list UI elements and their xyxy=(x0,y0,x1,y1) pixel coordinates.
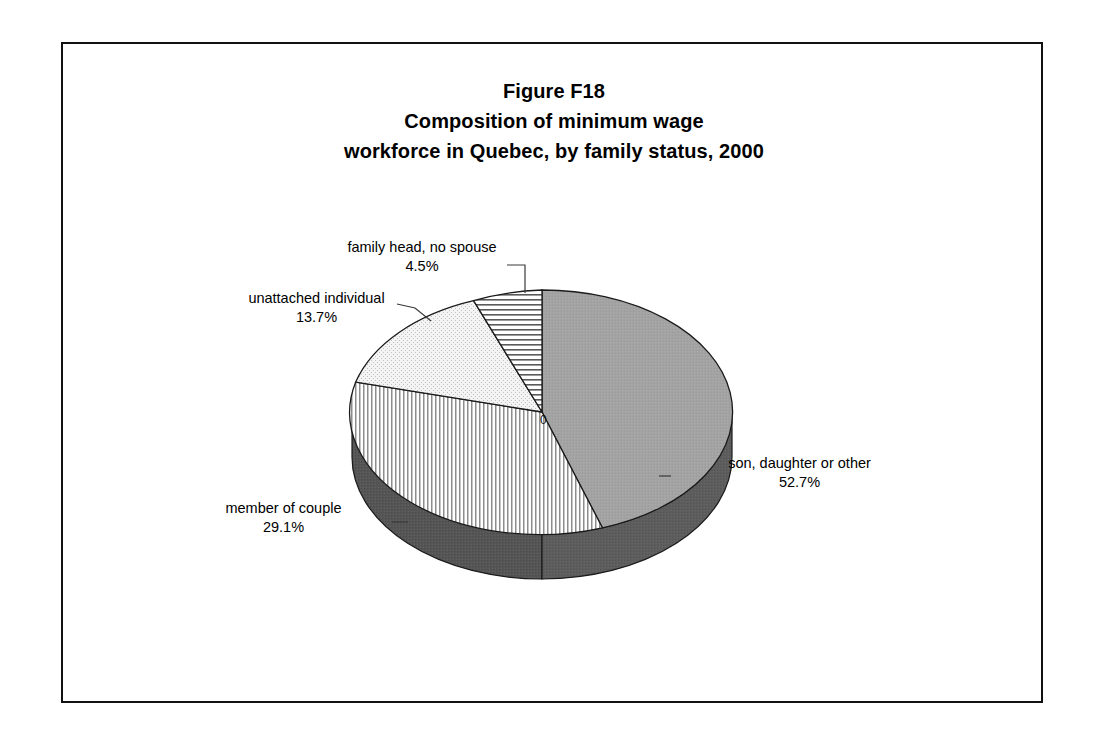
pie-label-name: son, daughter or other xyxy=(672,454,927,473)
figure-frame: Figure F18 Composition of minimum wage w… xyxy=(61,42,1043,703)
pie-label-family-head-no-spouse: family head, no spouse 4.5% xyxy=(312,238,532,276)
pie-label-member-of-couple: member of couple 29.1% xyxy=(176,499,391,537)
pie-label-value: 4.5% xyxy=(312,257,532,276)
pie-label-son-daughter-or-other: son, daughter or other 52.7% xyxy=(672,454,927,492)
pie-label-name: family head, no spouse xyxy=(312,238,532,257)
figure-page: Figure F18 Composition of minimum wage w… xyxy=(0,0,1104,741)
pie-label-value: 13.7% xyxy=(209,308,424,327)
pie-label-name: unattached individual xyxy=(209,289,424,308)
pie-label-name: member of couple xyxy=(176,499,391,518)
pie-label-unattached-individual: unattached individual 13.7% xyxy=(209,289,424,327)
pie-label-value: 29.1% xyxy=(176,518,391,537)
pie-center-marker: 0 xyxy=(540,413,547,427)
pie-label-value: 52.7% xyxy=(672,473,927,492)
pie-chart-graphic xyxy=(63,44,1045,705)
